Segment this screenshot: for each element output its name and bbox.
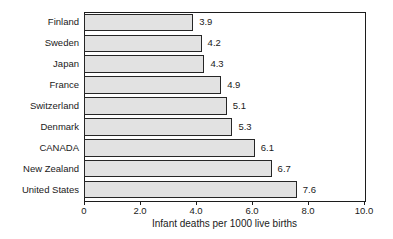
bar — [84, 160, 272, 178]
category-label: CANADA — [0, 143, 79, 153]
bar — [84, 55, 204, 73]
x-axis-tick-label: 6.0 — [245, 205, 258, 216]
bar — [84, 97, 227, 115]
x-axis-tick-label: 4.0 — [189, 205, 202, 216]
bar — [84, 139, 255, 157]
x-axis-tick-label: 8.0 — [301, 205, 314, 216]
bar-value-label: 4.3 — [210, 59, 223, 69]
bar — [84, 14, 193, 32]
x-axis-title: Infant deaths per 1000 live births — [0, 218, 393, 230]
x-axis-tick — [84, 201, 85, 205]
bar-chart: FinlandSwedenJapanFranceSwitzerlandDenma… — [0, 0, 393, 239]
category-label: New Zealand — [0, 164, 79, 174]
category-label: United States — [0, 185, 79, 195]
bar-value-label: 4.9 — [227, 80, 240, 90]
x-axis-tick-labels: 02.04.06.08.010.0 — [0, 205, 393, 217]
bar — [84, 76, 221, 94]
category-label: Sweden — [0, 38, 79, 48]
bar-value-label: 5.1 — [233, 101, 246, 111]
bar — [84, 118, 232, 136]
bar-value-label: 6.1 — [261, 143, 274, 153]
x-axis-tick — [196, 201, 197, 205]
bar — [84, 181, 297, 199]
x-axis-tick — [308, 201, 309, 205]
category-label: Japan — [0, 59, 79, 69]
category-label: Finland — [0, 17, 79, 27]
bar-value-label: 5.3 — [238, 122, 251, 132]
category-label: France — [0, 80, 79, 90]
x-axis-tick — [140, 201, 141, 205]
bar-value-label: 7.6 — [303, 185, 316, 195]
x-axis-title-text: Infant deaths per 1000 live births — [152, 218, 297, 230]
category-label: Switzerland — [0, 101, 79, 111]
category-label: Denmark — [0, 122, 79, 132]
x-axis-tick — [252, 201, 253, 205]
bars-container — [84, 12, 365, 200]
x-axis-tick — [364, 201, 365, 205]
bar-value-label: 4.2 — [208, 38, 221, 48]
category-axis-labels: FinlandSwedenJapanFranceSwitzerlandDenma… — [0, 12, 79, 200]
bar-value-label: 6.7 — [278, 164, 291, 174]
x-axis-tick-label: 10.0 — [355, 205, 374, 216]
x-axis-tick-label: 0 — [81, 205, 86, 216]
x-axis-tick-label: 2.0 — [133, 205, 146, 216]
bar-value-label: 3.9 — [199, 17, 212, 27]
bar — [84, 35, 202, 53]
